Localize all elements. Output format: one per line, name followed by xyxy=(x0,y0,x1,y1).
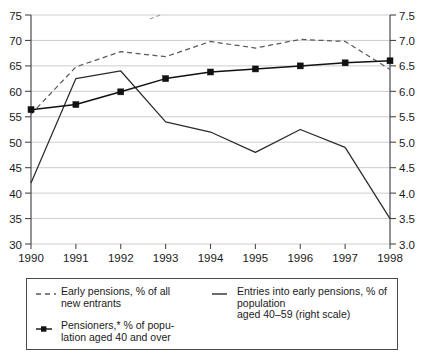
x-tick-label: 1997 xyxy=(332,252,358,264)
right-tick-label: 7.5 xyxy=(399,10,415,22)
left-tick-label: 75 xyxy=(9,10,22,22)
gridlines xyxy=(31,15,390,244)
right-tick-label: 5.0 xyxy=(399,137,415,149)
data-point-marker xyxy=(387,58,393,64)
x-axis-ticks xyxy=(31,244,390,249)
x-tick-label: 1993 xyxy=(153,252,179,264)
data-point-marker xyxy=(342,60,348,66)
axes xyxy=(31,15,390,244)
legend-label: Pensioners,* % of popu- lation aged 40 a… xyxy=(61,320,174,343)
data-point-marker xyxy=(252,66,258,72)
data-point-marker xyxy=(73,102,79,108)
right-tick-label: 4.5 xyxy=(399,162,415,174)
left-tick-label: 40 xyxy=(9,188,22,200)
series-layer xyxy=(28,39,393,218)
x-tick-label: 1990 xyxy=(18,252,44,264)
right-tick-label: 3.0 xyxy=(399,239,415,251)
legend-item-early-pensions[interactable]: Early pensions, % of all new entrants xyxy=(35,286,207,309)
right-tick-label: 7.0 xyxy=(399,35,415,47)
left-tick-label: 65 xyxy=(9,60,22,72)
solid-line-square-marker-icon xyxy=(35,325,57,337)
stray-dash-artifact xyxy=(150,15,160,19)
data-point-marker xyxy=(208,69,214,75)
right-tick-label: 6.0 xyxy=(399,86,415,98)
solid-line-icon xyxy=(211,291,233,303)
x-axis-tick-labels: 1990 1991 1992 1993 1994 1995 1996 1997 … xyxy=(18,252,403,264)
x-tick-label: 1996 xyxy=(287,252,313,264)
figure: 75 70 65 60 55 50 45 40 35 30 7.5 7.0 6.… xyxy=(0,0,426,363)
legend-label: Entries into early pensions, % of popula… xyxy=(237,286,393,321)
dashed-line-icon xyxy=(35,291,57,303)
legend-label: Early pensions, % of all new entrants xyxy=(61,286,170,309)
legend-item-entries-into-early-pensions[interactable]: Entries into early pensions, % of popula… xyxy=(211,286,393,321)
left-tick-label: 45 xyxy=(9,162,22,174)
x-tick-label: 1995 xyxy=(243,252,269,264)
data-point-marker xyxy=(118,89,124,95)
series-line-1 xyxy=(31,71,390,219)
left-axis-ticks xyxy=(25,15,31,244)
right-tick-label: 6.5 xyxy=(399,60,415,72)
left-tick-label: 50 xyxy=(9,137,22,149)
data-point-marker xyxy=(28,107,34,113)
legend-item-pensioners[interactable]: Pensioners,* % of popu- lation aged 40 a… xyxy=(35,320,215,343)
right-tick-label: 5.5 xyxy=(399,111,415,123)
right-axis-ticks xyxy=(390,15,396,244)
left-tick-label: 55 xyxy=(9,111,22,123)
data-point-marker xyxy=(163,76,169,82)
left-axis-tick-labels: 75 70 65 60 55 50 45 40 35 30 xyxy=(9,10,22,251)
left-tick-label: 60 xyxy=(9,86,22,98)
data-point-marker xyxy=(297,63,303,69)
left-tick-label: 30 xyxy=(9,239,22,251)
chart-legend: Early pensions, % of all new entrants En… xyxy=(26,278,398,350)
right-tick-label: 4.0 xyxy=(399,188,415,200)
left-tick-label: 35 xyxy=(9,213,22,225)
chart-plot-area: 75 70 65 60 55 50 45 40 35 30 7.5 7.0 6.… xyxy=(0,0,426,268)
x-tick-label: 1994 xyxy=(198,252,224,264)
x-tick-label: 1992 xyxy=(108,252,134,264)
line-chart: 75 70 65 60 55 50 45 40 35 30 7.5 7.0 6.… xyxy=(0,0,426,268)
right-axis-tick-labels: 7.5 7.0 6.5 6.0 5.5 5.0 4.5 4.0 3.5 3.0 xyxy=(399,10,415,251)
right-tick-label: 3.5 xyxy=(399,213,415,225)
left-tick-label: 70 xyxy=(9,35,22,47)
x-tick-label: 1991 xyxy=(63,252,89,264)
series-line-2 xyxy=(31,61,390,110)
x-tick-label: 1998 xyxy=(377,252,403,264)
